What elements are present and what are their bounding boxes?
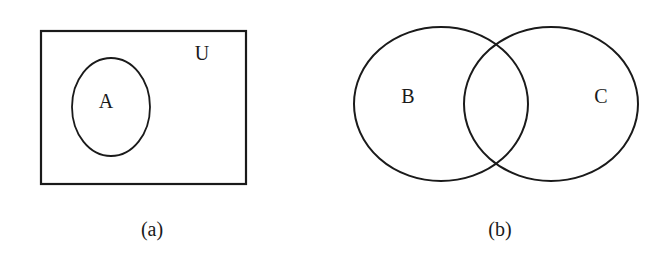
- set-b-label: B: [401, 85, 414, 107]
- panel-a: A U (a): [41, 31, 246, 241]
- venn-diagram-figure: A U (a) B C (b): [0, 0, 669, 263]
- universe-label: U: [195, 42, 210, 64]
- set-b-circle: [354, 27, 528, 181]
- caption-b: (b): [488, 218, 511, 241]
- panel-b: B C (b): [354, 27, 638, 241]
- set-c-circle: [464, 27, 638, 181]
- caption-a: (a): [141, 218, 163, 241]
- set-c-label: C: [594, 85, 607, 107]
- set-a-label: A: [99, 90, 114, 112]
